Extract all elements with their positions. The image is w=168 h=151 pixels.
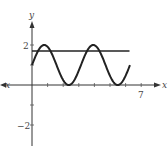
y-tick-label-neg2: −2 (17, 121, 30, 131)
x-axis (0, 83, 161, 88)
x-tick-label-7: 7 (138, 90, 144, 100)
arrow-up-icon (30, 21, 35, 28)
x-axis-label-right: x (162, 80, 167, 90)
y-axis-label: y (28, 10, 35, 20)
chart: y x x 2 −2 7 (0, 0, 168, 151)
x-axis-label-left: x (5, 80, 10, 90)
arrow-right-icon (154, 83, 161, 88)
y-tick-label-2: 2 (23, 41, 29, 51)
